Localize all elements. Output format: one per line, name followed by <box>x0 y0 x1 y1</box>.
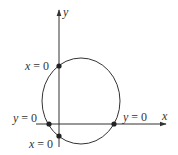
point-left-y0 <box>46 121 51 126</box>
diagram-svg: x y x = 0 y = 0 y = 0 x = 0 <box>0 0 178 155</box>
label-right-y0: y = 0 <box>122 110 147 124</box>
label-bottom-x0: x = 0 <box>28 137 53 151</box>
point-top-x0 <box>56 63 61 68</box>
circle-intercepts-diagram: x y x = 0 y = 0 y = 0 x = 0 <box>0 0 178 155</box>
label-left-y0: y = 0 <box>12 111 37 125</box>
y-axis-label: y <box>62 5 69 19</box>
x-axis-label: x <box>161 109 168 123</box>
point-bottom-x0 <box>56 133 61 138</box>
label-top-x0: x = 0 <box>24 59 49 73</box>
circle-curve <box>42 58 120 144</box>
point-right-y0 <box>111 121 116 126</box>
